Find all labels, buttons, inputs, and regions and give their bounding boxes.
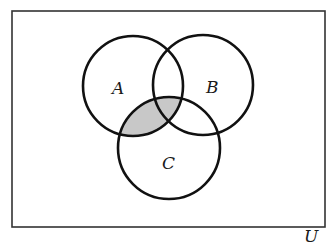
venn-diagram: A B C U [0,0,333,245]
set-a-label: A [110,78,124,98]
set-c-label: C [162,153,175,173]
set-b-label: B [205,77,219,97]
universe-label: U [304,226,319,245]
